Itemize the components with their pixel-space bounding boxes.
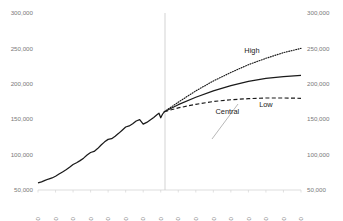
x-tick-label: 2070 bbox=[245, 216, 252, 221]
y-tick-label-right: 300,000 bbox=[307, 9, 330, 16]
y-tick-label-left: 250,000 bbox=[11, 45, 34, 52]
y-axis-right-labels: 50,000100,000150,000200,000250,000300,00… bbox=[307, 9, 330, 193]
x-tick-label: 1980 bbox=[87, 216, 94, 221]
y-tick-label-left: 200,000 bbox=[11, 80, 34, 87]
y-tick-label-left: 50,000 bbox=[14, 186, 33, 193]
annotation-label-high: High bbox=[244, 46, 259, 55]
y-axis-left-labels: 50,000100,000150,000200,000250,000300,00… bbox=[11, 9, 34, 193]
x-tick-label: 2030 bbox=[174, 216, 181, 221]
x-tick-label: 2000 bbox=[122, 216, 129, 221]
y-tick-label-left: 150,000 bbox=[11, 115, 34, 122]
x-tick-label: 2050 bbox=[210, 216, 217, 221]
y-tick-label-right: 150,000 bbox=[307, 115, 330, 122]
y-tick-label-left: 300,000 bbox=[11, 9, 34, 16]
annotation-label-central: Central bbox=[215, 107, 239, 116]
y-tick-label-left: 100,000 bbox=[11, 151, 34, 158]
x-tick-label: 1950 bbox=[34, 216, 41, 221]
annotation-label-low: Low bbox=[259, 100, 273, 109]
x-tick-label: 1970 bbox=[69, 216, 76, 221]
x-tick-label: 2060 bbox=[227, 216, 234, 221]
x-tick-label: 2020 bbox=[157, 216, 164, 221]
x-tick-label: 2040 bbox=[192, 216, 199, 221]
series-line-historical bbox=[38, 112, 164, 183]
x-tick-label: 2100 bbox=[297, 216, 304, 221]
x-tick-label: 1990 bbox=[104, 216, 111, 221]
y-tick-label-right: 200,000 bbox=[307, 80, 330, 87]
x-tick-label: 2090 bbox=[280, 216, 287, 221]
y-tick-label-right: 50,000 bbox=[307, 186, 326, 193]
population-projection-chart: 50,000100,000150,000200,000250,000300,00… bbox=[0, 0, 343, 221]
y-tick-label-right: 250,000 bbox=[307, 45, 330, 52]
y-tick-label-right: 100,000 bbox=[307, 151, 330, 158]
x-axis-labels: 1950196019701980199020002010202020302040… bbox=[34, 190, 304, 221]
x-tick-label: 2010 bbox=[139, 216, 146, 221]
data-series-group bbox=[38, 48, 301, 183]
x-tick-label: 2080 bbox=[262, 216, 269, 221]
series-annotation-labels: HighCentralLow bbox=[215, 46, 273, 116]
x-tick-label: 1960 bbox=[52, 216, 59, 221]
chart-canvas: 50,000100,000150,000200,000250,000300,00… bbox=[0, 0, 343, 221]
